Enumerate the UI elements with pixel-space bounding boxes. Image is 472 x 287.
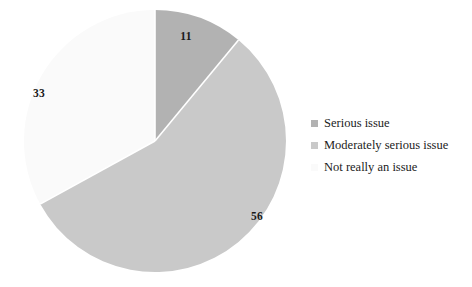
- pie-plot-area: 11 56 33: [0, 0, 300, 287]
- pie-chart-figure: 11 56 33 Serious issue Moderately seriou…: [0, 0, 472, 287]
- legend-item-moderately-serious-issue[interactable]: Moderately serious issue: [311, 134, 469, 156]
- chart-legend: Serious issue Moderately serious issue N…: [311, 112, 469, 178]
- pie-svg: [0, 0, 300, 287]
- legend-label: Moderately serious issue: [324, 139, 448, 152]
- legend-item-serious-issue[interactable]: Serious issue: [311, 112, 469, 134]
- legend-swatch-icon: [311, 142, 318, 149]
- legend-label: Not really an issue: [324, 161, 417, 174]
- legend-swatch-icon: [311, 164, 318, 171]
- legend-label: Serious issue: [324, 117, 390, 130]
- legend-item-not-really-an-issue[interactable]: Not really an issue: [311, 156, 469, 178]
- legend-swatch-icon: [311, 120, 318, 127]
